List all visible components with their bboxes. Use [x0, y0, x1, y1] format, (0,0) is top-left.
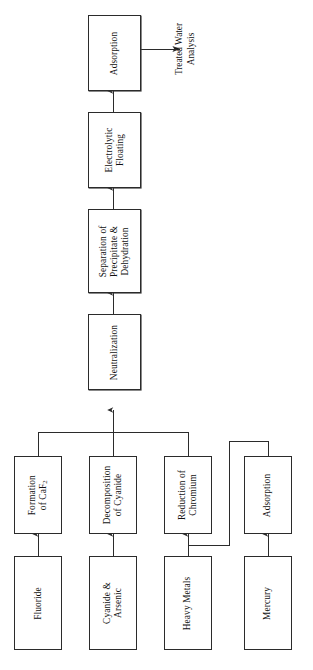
process-flow-diagram: Adsorption Treated Water Analysis Electr…: [0, 0, 313, 670]
node-adsorption-final-label: Adsorption: [109, 31, 120, 74]
node-fluoride-label: Fluoride: [33, 587, 44, 620]
node-adsorption-mercury[interactable]: Adsorption: [244, 456, 292, 534]
node-separation-dehydration[interactable]: Separation of Precipitate & Dehydration: [88, 209, 141, 293]
node-formation-caf2-label: Formation of CaF2: [27, 475, 49, 515]
node-cyanide-arsenic-label: Cyanide & Arsenic: [102, 582, 124, 624]
node-formation-caf2[interactable]: Formation of CaF2: [14, 456, 62, 534]
node-decomposition-cyanide[interactable]: Decomposition of Cyanide: [89, 456, 137, 534]
node-separation-dehydration-label: Separation of Precipitate & Dehydration: [98, 225, 131, 277]
node-neutralization-label: Neutralization: [109, 324, 120, 379]
node-reduction-chromium-label: Reduction of Chromium: [177, 470, 199, 520]
node-heavy-metals[interactable]: Heavy Metals: [164, 556, 212, 650]
node-cyanide-arsenic[interactable]: Cyanide & Arsenic: [89, 556, 137, 650]
node-neutralization[interactable]: Neutralization: [88, 314, 141, 390]
node-heavy-metals-label: Heavy Metals: [183, 576, 194, 630]
node-adsorption-mercury-label: Adsorption: [263, 473, 274, 516]
annotation-treated-water-analysis: Treated Water Analysis: [174, 19, 220, 79]
node-adsorption-final[interactable]: Adsorption: [88, 15, 141, 91]
node-fluoride[interactable]: Fluoride: [14, 556, 62, 650]
node-decomposition-cyanide-label: Decomposition of Cyanide: [102, 466, 124, 525]
node-mercury-label: Mercury: [263, 586, 274, 619]
node-reduction-chromium[interactable]: Reduction of Chromium: [164, 456, 212, 534]
node-electrolytic-floating[interactable]: Electrolytic Floating: [88, 112, 141, 188]
node-electrolytic-floating-label: Electrolytic Floating: [104, 127, 126, 172]
node-mercury[interactable]: Mercury: [244, 556, 292, 650]
